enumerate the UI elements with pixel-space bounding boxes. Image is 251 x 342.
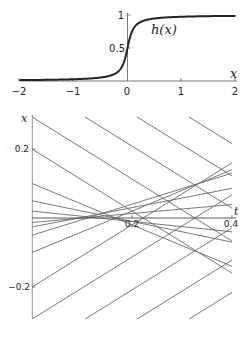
bottom-tick-x-02: 0.2 — [15, 144, 29, 154]
bottom-axis-label-t: t — [234, 205, 239, 218]
top-tick-y-05: 0.5 — [109, 43, 125, 54]
bottom-axis-label-x: x — [21, 112, 28, 125]
top-tick-y-1: 1 — [118, 10, 124, 21]
bottom-tick-t-02: 0.2 — [125, 219, 139, 229]
top-tick-x-neg2: −2 — [12, 86, 27, 97]
figure-svg: −2 −1 0 1 2 0.5 1 x h(x) 0.2 0.4 0.2 −0.… — [0, 0, 251, 342]
top-axis-label-x: x — [230, 66, 238, 81]
top-tick-x-2: 2 — [232, 86, 238, 97]
characteristic-line — [32, 170, 232, 253]
figure: −2 −1 0 1 2 0.5 1 x h(x) 0.2 0.4 0.2 −0.… — [0, 0, 251, 342]
bottom-plot: 0.2 0.4 0.2 −0.2 t x — [8, 112, 239, 319]
bottom-tick-t-04: 0.4 — [224, 219, 239, 229]
curve-label-h: h(x) — [151, 22, 177, 37]
characteristic-line — [137, 117, 232, 176]
characteristic-line — [189, 117, 232, 144]
characteristic-line — [137, 260, 232, 319]
characteristic-line — [189, 292, 232, 319]
top-plot: −2 −1 0 1 2 0.5 1 x h(x) — [12, 10, 239, 97]
top-tick-x-neg1: −1 — [66, 86, 81, 97]
top-tick-x-0: 0 — [124, 86, 130, 97]
bottom-tick-x-neg02: −0.2 — [8, 282, 30, 292]
top-tick-x-1: 1 — [178, 86, 184, 97]
